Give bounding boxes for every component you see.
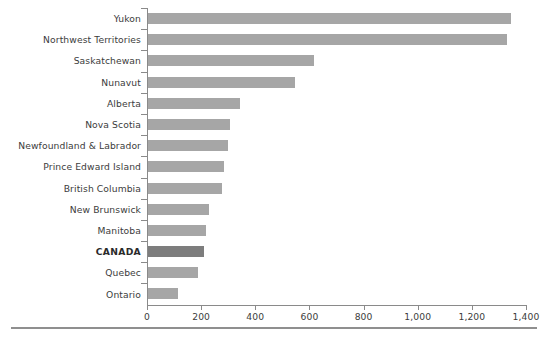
x-axis-tick-label: 600 [279, 311, 339, 322]
category-label: Nova Scotia [3, 119, 141, 130]
bar [148, 77, 295, 88]
x-axis-tick [147, 305, 148, 310]
category-label: Ontario [3, 289, 141, 300]
y-axis-tick [141, 93, 147, 94]
y-axis-tick [141, 178, 147, 179]
horizontal-bar-chart: YukonNorthwest TerritoriesSaskatchewanNu… [0, 0, 552, 342]
category-label: Prince Edward Island [3, 161, 141, 172]
category-label: Saskatchewan [3, 55, 141, 66]
bar-row: Nunavut [0, 72, 552, 93]
category-label: Manitoba [3, 225, 141, 236]
bar [148, 119, 230, 130]
y-axis-tick [141, 8, 147, 9]
x-axis-tick-label: 1,200 [442, 311, 502, 322]
bar-row: Ontario [0, 283, 552, 304]
bar [148, 13, 511, 24]
bar-rows: YukonNorthwest TerritoriesSaskatchewanNu… [0, 8, 552, 305]
bar-row: New Brunswick [0, 199, 552, 220]
category-label: Northwest Territories [3, 34, 141, 45]
bar-row: Newfoundland & Labrador [0, 135, 552, 156]
bar-row: Alberta [0, 93, 552, 114]
x-axis-tick [418, 305, 419, 310]
bar [148, 204, 209, 215]
y-axis-tick [141, 50, 147, 51]
y-axis-tick [141, 262, 147, 263]
bar-row: Northwest Territories [0, 29, 552, 50]
y-axis-tick [141, 156, 147, 157]
bar [148, 225, 206, 236]
x-axis-tick [364, 305, 365, 310]
x-axis-tick [472, 305, 473, 310]
bar [148, 161, 224, 172]
plot-area: YukonNorthwest TerritoriesSaskatchewanNu… [0, 0, 552, 310]
bar-row: CANADA [0, 241, 552, 262]
y-axis-tick [141, 29, 147, 30]
x-axis-tick [255, 305, 256, 310]
y-axis-tick [141, 199, 147, 200]
x-axis-tick-label: 400 [225, 311, 285, 322]
x-axis-tick-label: 0 [117, 311, 177, 322]
category-label: Newfoundland & Labrador [3, 140, 141, 151]
x-axis-ticks: 02004006008001,0001,2001,400 [0, 305, 552, 327]
bar [148, 183, 222, 194]
category-label: New Brunswick [3, 204, 141, 215]
bar [148, 267, 198, 278]
y-axis-tick [141, 72, 147, 73]
bar [148, 55, 314, 66]
bar-row: Nova Scotia [0, 114, 552, 135]
category-label: Nunavut [3, 77, 141, 88]
x-axis-tick [309, 305, 310, 310]
bottom-divider-rule [11, 327, 537, 329]
bar [148, 246, 204, 257]
bar-row: Saskatchewan [0, 50, 552, 71]
bar [148, 288, 178, 299]
x-axis-tick [526, 305, 527, 310]
x-axis-tick [201, 305, 202, 310]
category-label: Quebec [3, 267, 141, 278]
category-label: Alberta [3, 98, 141, 109]
y-axis-tick [141, 283, 147, 284]
y-axis-tick [141, 135, 147, 136]
y-axis-tick [141, 241, 147, 242]
x-axis-tick-label: 1,000 [388, 311, 448, 322]
category-label: Yukon [3, 13, 141, 24]
category-label: British Columbia [3, 183, 141, 194]
y-axis-tick [141, 220, 147, 221]
bar-row: Yukon [0, 8, 552, 29]
x-axis-tick-label: 200 [171, 311, 231, 322]
bar-row: British Columbia [0, 178, 552, 199]
y-axis-tick [141, 114, 147, 115]
bar [148, 34, 507, 45]
bar-row: Prince Edward Island [0, 156, 552, 177]
bar-row: Manitoba [0, 220, 552, 241]
bar [148, 140, 228, 151]
bar-row: Quebec [0, 262, 552, 283]
bar [148, 98, 240, 109]
category-label: CANADA [3, 246, 141, 257]
x-axis-tick-label: 800 [334, 311, 394, 322]
x-axis-tick-label: 1,400 [496, 311, 552, 322]
